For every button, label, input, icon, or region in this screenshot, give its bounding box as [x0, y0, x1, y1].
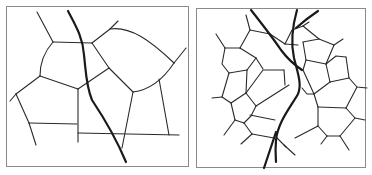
left-panel-road [68, 11, 126, 162]
left-panel-frame [7, 7, 189, 167]
left-panel-cell-edges [10, 12, 186, 148]
right-panel-frame [197, 9, 366, 168]
right-panel-road-branch [296, 11, 318, 28]
figure [0, 0, 372, 175]
left-panel [7, 7, 189, 167]
right-panel [197, 9, 368, 169]
right-panel-cell-edges [212, 15, 367, 155]
right-panel-roads [251, 10, 318, 168]
